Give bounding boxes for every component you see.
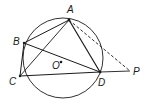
geometry-diagram: A B C D P O	[0, 0, 148, 109]
segment-bd	[24, 43, 100, 72]
point-o	[60, 61, 63, 64]
point-a	[68, 19, 71, 22]
point-d	[99, 71, 102, 74]
segment-ab	[24, 20, 69, 43]
segment-dp	[100, 71, 130, 72]
label-o: O	[52, 60, 60, 71]
label-c: C	[9, 76, 17, 87]
label-d: D	[98, 77, 105, 88]
point-c	[19, 75, 21, 77]
segment-cd	[20, 72, 100, 76]
segment-da	[69, 20, 100, 72]
label-p: P	[133, 66, 140, 77]
label-a: A	[66, 4, 74, 15]
point-b	[23, 42, 25, 44]
label-b: B	[13, 36, 20, 47]
segment-ac	[20, 20, 69, 76]
